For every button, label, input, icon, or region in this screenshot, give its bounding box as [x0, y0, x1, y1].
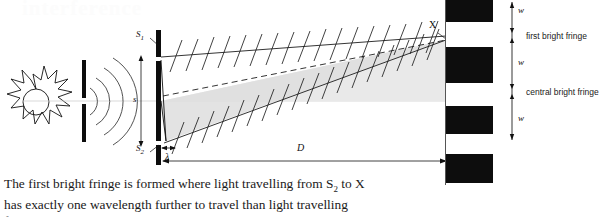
label-slit-s1: S1 — [136, 29, 144, 42]
label-point-x: X — [429, 19, 436, 30]
body-paragraph: The first bright fringe is formed where … — [4, 176, 436, 217]
double-slit-barrier — [156, 30, 161, 165]
paragraph-line-1: The first bright fringe is formed where … — [4, 176, 436, 197]
annotation-central-bright-fringe: central bright fringe — [526, 87, 599, 97]
label-slit-separation: s — [133, 94, 137, 104]
screen-distance-dimension — [162, 159, 447, 168]
label-wavelength-lambda: λ — [165, 151, 169, 162]
dark-fringe-bar — [446, 0, 493, 22]
circular-wavefronts — [90, 58, 137, 145]
figure-page: interference — [0, 0, 607, 217]
sun-icon — [7, 66, 72, 124]
fringe-width-label: w — [518, 113, 524, 123]
paragraph-line-3-clipped: from S — [4, 213, 436, 217]
fringe-width-label: w — [518, 5, 524, 15]
label-slit-s2: S2 — [136, 143, 144, 156]
annotation-first-bright-fringe: first bright fringe — [526, 31, 587, 41]
label-screen-distance: D — [297, 142, 304, 153]
dark-fringe-bar — [446, 47, 493, 83]
dark-fringe-bar — [446, 106, 493, 134]
fringe-width-label: w — [518, 57, 524, 67]
dark-fringe-bar — [446, 154, 493, 183]
fringe-width-ruler — [510, 2, 514, 140]
paragraph-line-2: has exactly one wavelength further to tr… — [4, 197, 436, 213]
